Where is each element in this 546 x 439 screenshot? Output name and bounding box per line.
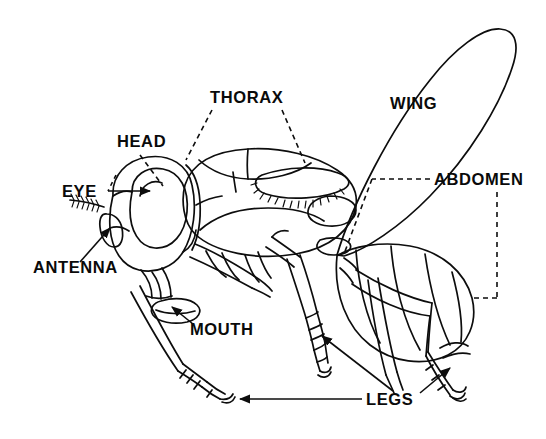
figure-canvas: HEAD THORAX WING ABDOMEN EYE ANTENNA MOU…: [0, 0, 546, 439]
label-abdomen: ABDOMEN: [434, 170, 523, 188]
label-antenna: ANTENNA: [33, 258, 118, 276]
diagram-background: [0, 0, 546, 439]
label-mouth: MOUTH: [190, 320, 254, 338]
label-thorax: THORAX: [210, 88, 283, 106]
label-wing: WING: [390, 94, 437, 112]
label-eye: EYE: [62, 182, 97, 200]
insect-anatomy-diagram: HEAD THORAX WING ABDOMEN EYE ANTENNA MOU…: [0, 0, 546, 439]
label-head: HEAD: [117, 132, 166, 150]
label-legs: LEGS: [366, 390, 413, 408]
